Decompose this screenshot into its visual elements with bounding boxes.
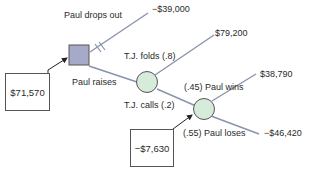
- ev-box-showdown: −$7,630: [130, 129, 174, 167]
- label-drop-out: Paul drops out: [64, 10, 122, 20]
- payoff-paul-wins: $38,790: [260, 69, 293, 79]
- label-paul-loses: (.55) Paul loses: [183, 128, 246, 138]
- label-paul-wins: (.45) Paul wins: [184, 82, 244, 92]
- payoff-tj-folds: $79,200: [215, 28, 248, 38]
- chance-node-tj: [137, 72, 158, 93]
- label-tj-calls: T.J. calls (.2): [124, 100, 175, 110]
- decision-node-square: [69, 45, 89, 65]
- chance-node-showdown: [194, 99, 215, 120]
- ev-arrow-showdown: [173, 115, 192, 129]
- payoff-drop-out: −$39,000: [152, 4, 190, 14]
- label-tj-folds: T.J. folds (.8): [124, 51, 176, 61]
- ev-arrow-decision: [48, 58, 67, 73]
- label-raise: Paul raises: [72, 77, 117, 87]
- ev-box-decision: $71,570: [5, 73, 50, 111]
- payoff-paul-loses: −$46,420: [264, 128, 302, 138]
